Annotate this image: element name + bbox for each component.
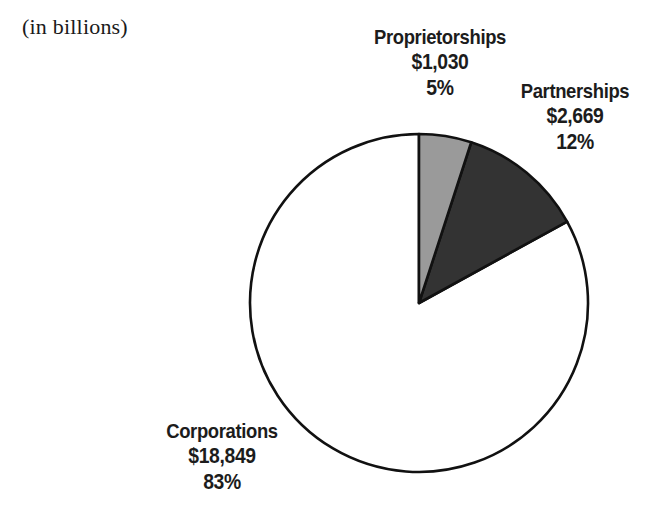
pie-label-partnerships: Partnerships $2,669 12% <box>496 80 654 155</box>
pie-label-partnerships-percent: 12% <box>504 131 646 154</box>
pie-label-proprietorships-name: Proprietorships <box>345 26 536 48</box>
pie-label-corporations-name: Corporations <box>127 420 318 442</box>
chart-canvas: (in billions) Proprietorships $1,030 5% … <box>0 0 654 511</box>
pie-label-corporations: Corporations $18,849 83% <box>116 420 328 495</box>
pie-label-partnerships-value: $2,669 <box>504 105 646 128</box>
pie-label-corporations-percent: 83% <box>127 471 318 494</box>
pie-label-proprietorships-value: $1,030 <box>345 51 536 74</box>
pie-label-corporations-value: $18,849 <box>127 445 318 468</box>
pie-label-partnerships-name: Partnerships <box>504 80 646 102</box>
